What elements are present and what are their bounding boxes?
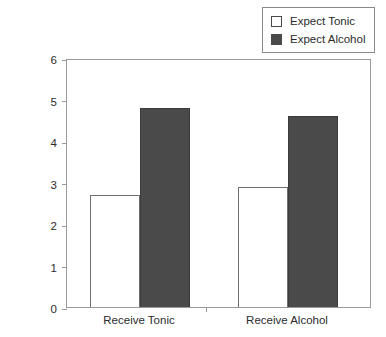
x-axis-group-label: Receive Tonic	[103, 313, 174, 327]
y-axis-tick-label: 6	[51, 54, 57, 66]
x-axis-center-tick	[206, 307, 207, 312]
y-axis-tick: 4	[51, 137, 67, 149]
y-axis-tick-mark	[62, 101, 67, 102]
y-axis-tick: 1	[51, 262, 67, 274]
legend-swatch-open-icon	[271, 16, 282, 27]
bar	[288, 116, 338, 307]
legend-swatch-filled-icon	[271, 34, 282, 45]
bar	[90, 195, 140, 307]
bar	[238, 187, 288, 307]
legend-item-expect-tonic: Expect Tonic	[271, 13, 365, 29]
y-axis-tick-mark	[62, 267, 67, 268]
plot-area: 0123456	[67, 60, 370, 307]
y-axis-tick-mark	[62, 143, 67, 144]
y-axis-tick: 2	[51, 220, 67, 232]
y-axis-tick-label: 0	[51, 303, 57, 315]
y-axis-tick: 0	[51, 303, 67, 315]
y-axis-tick: 3	[51, 179, 67, 191]
y-axis-tick-label: 5	[51, 96, 57, 108]
y-axis-tick-mark	[62, 60, 67, 61]
y-axis-tick-label: 3	[51, 179, 57, 191]
bar	[140, 108, 190, 307]
legend-item-expect-alcohol: Expect Alcohol	[271, 31, 365, 47]
y-axis-tick-mark	[62, 184, 67, 185]
y-axis-tick-mark	[62, 226, 67, 227]
y-axis-tick-label: 1	[51, 262, 57, 274]
legend-label: Expect Alcohol	[290, 33, 365, 46]
plot-frame: 0123456	[66, 59, 371, 308]
y-axis-tick-mark	[62, 309, 67, 310]
legend-label: Expect Tonic	[290, 15, 355, 28]
y-axis-tick: 5	[51, 96, 67, 108]
y-axis-tick-label: 4	[51, 137, 57, 149]
y-axis-tick: 6	[51, 54, 67, 66]
y-axis-tick-label: 2	[51, 220, 57, 232]
x-axis-group-label: Receive Alcohol	[246, 313, 328, 327]
chart-legend: Expect Tonic Expect Alcohol	[262, 7, 375, 53]
